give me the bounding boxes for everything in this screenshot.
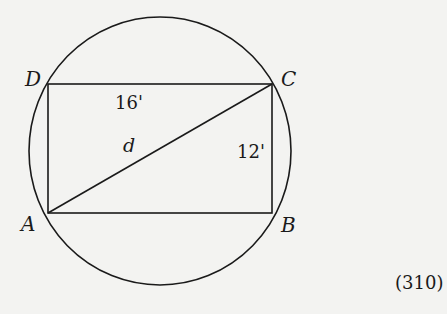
side-label-top: 16' <box>115 92 143 113</box>
diagonal-label: d <box>123 134 135 156</box>
vertex-label-d: D <box>24 67 41 91</box>
vertex-label-c: C <box>281 67 296 91</box>
diagram-canvas: D C A B 16' d 12' (310) <box>0 0 447 314</box>
vertex-label-b: B <box>280 213 296 237</box>
figure-number: (310) <box>395 272 443 293</box>
side-label-right: 12' <box>237 141 265 162</box>
vertex-label-a: A <box>19 212 35 236</box>
